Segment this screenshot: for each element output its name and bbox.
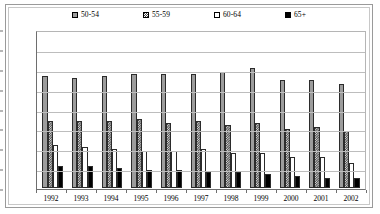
gridline: [37, 52, 365, 53]
legend-item-60-64: 60-64: [214, 11, 241, 19]
y-axis-tick-mark: [0, 90, 3, 91]
bar-65plus-1999: [265, 174, 270, 188]
bar-groups: [38, 33, 364, 188]
bar-group-1994: [97, 33, 127, 188]
y-axis-tick-mark: [0, 130, 3, 131]
bar-65plus-2001: [325, 178, 330, 188]
legend-swatch-icon: [72, 12, 78, 18]
legend-label: 65+: [294, 11, 306, 19]
bar-group-1997: [186, 33, 216, 188]
x-axis-label-2000: 2000: [276, 192, 306, 208]
bar-group-1999: [245, 33, 275, 188]
x-axis-label-1999: 1999: [246, 192, 276, 208]
plot-area: [36, 31, 366, 190]
gridline: [37, 131, 365, 132]
y-axis-tick-mark: [0, 31, 3, 32]
y-axis-tick-mark: [0, 110, 3, 111]
x-axis-label-1994: 1994: [96, 192, 126, 208]
y-axis-tick-mark: [0, 170, 3, 171]
x-axis-label-1996: 1996: [156, 192, 186, 208]
bar-65plus-1993: [88, 166, 93, 188]
bar-group-2002: [334, 33, 364, 188]
gridline: [37, 151, 365, 152]
bar-group-1992: [38, 33, 68, 188]
y-axis-tick-mark: [0, 50, 3, 51]
bar-group-1993: [68, 33, 98, 188]
chart-legend: 50-5455-5960-6465+: [6, 11, 372, 19]
x-axis-label-1995: 1995: [126, 192, 156, 208]
y-axis-tick-mark: [0, 70, 3, 71]
bar-group-1996: [157, 33, 187, 188]
y-axis-labels: 01020304050607080: [0, 31, 3, 190]
bar-group-2001: [305, 33, 335, 188]
x-axis-label-1992: 1992: [36, 192, 66, 208]
x-axis-labels: 1992199319941995199619971998199920002001…: [36, 192, 366, 208]
bar-group-1998: [216, 33, 246, 188]
bar-group-2000: [275, 33, 305, 188]
legend-item-65plus: 65+: [285, 11, 306, 19]
bar-65plus-1992: [58, 166, 63, 188]
y-axis-tick-mark: [0, 150, 3, 151]
x-axis-label-2001: 2001: [306, 192, 336, 208]
bar-65plus-1998: [236, 172, 241, 188]
gridline: [37, 171, 365, 172]
bar-65plus-1996: [177, 170, 182, 188]
legend-label: 50-54: [81, 11, 99, 19]
y-axis-tick-mark: [0, 190, 3, 191]
bar-65plus-1995: [147, 170, 152, 188]
bar-65plus-2002: [354, 178, 359, 188]
gridline: [37, 92, 365, 93]
bar-group-1995: [127, 33, 157, 188]
gridline: [37, 72, 365, 73]
bar-65plus-2000: [295, 176, 300, 188]
gridline: [37, 112, 365, 113]
x-axis-tick-mark: [366, 190, 367, 193]
legend-swatch-icon: [285, 12, 291, 18]
legend-item-50-54: 50-54: [72, 11, 99, 19]
legend-label: 55-59: [152, 11, 170, 19]
legend-label: 60-64: [223, 11, 241, 19]
legend-swatch-icon: [214, 12, 220, 18]
x-axis-label-1993: 1993: [66, 192, 96, 208]
legend-swatch-icon: [143, 12, 149, 18]
bar-65plus-1997: [206, 172, 211, 188]
plot-wrapper: [36, 31, 366, 190]
x-axis-label-1997: 1997: [186, 192, 216, 208]
x-axis-label-1998: 1998: [216, 192, 246, 208]
x-axis-label-2002: 2002: [336, 192, 366, 208]
legend-item-55-59: 55-59: [143, 11, 170, 19]
chart-frame: 50-5455-5960-6465+ 01020304050607080 199…: [5, 4, 373, 208]
